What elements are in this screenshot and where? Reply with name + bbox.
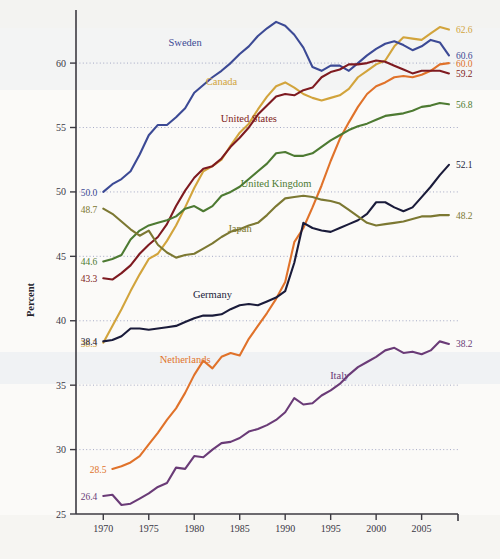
start-value-italy: 26.4 [81,492,98,502]
series-lines [103,22,449,505]
end-value-canada: 62.6 [456,25,473,35]
series-label-united-states: United States [221,113,277,124]
x-tick-label: 1970 [93,523,113,534]
end-value-netherlands: 60.0 [456,59,473,69]
chart-figure: 2530354045505560 19701975198019851990199… [0,0,500,559]
start-value-netherlands: 28.5 [90,465,107,475]
start-value-sweden: 50.0 [81,188,98,198]
series-label-sweden: Sweden [169,37,203,48]
x-tick-label: 2000 [366,523,386,534]
end-value-italy: 38.2 [456,339,473,349]
y-tick-label: 40 [56,315,66,326]
y-tick-label: 35 [56,380,66,391]
series-label-germany: Germany [193,289,233,300]
x-tick-label: 1985 [230,523,250,534]
series-line-sweden [103,22,449,192]
end-value-united-kingdom: 56.8 [456,100,473,110]
x-tick-label: 1975 [139,523,159,534]
end-value-united-states: 59.2 [456,69,473,79]
start-value-japan: 48.7 [81,205,98,215]
series-line-japan [103,196,449,258]
y-tick-label: 50 [56,186,66,197]
series-label-italy: Italy [330,370,350,381]
series-label-canada: Canada [206,76,238,87]
line-chart: 2530354045505560 19701975198019851990199… [0,0,500,559]
y-axis-ticks: 2530354045505560 [56,58,76,520]
start-value-united-kingdom: 44.6 [81,257,98,267]
x-tick-label: 2005 [412,523,432,534]
x-tick-label: 1980 [184,523,204,534]
y-tick-label: 45 [56,251,66,262]
y-tick-label: 55 [56,122,66,133]
series-label-united-kingdom: United Kingdom [241,178,312,189]
start-value-germany: 38.4 [81,337,98,347]
x-tick-label: 1990 [275,523,295,534]
y-tick-label: 60 [56,58,66,69]
x-tick-label: 1995 [321,523,341,534]
end-value-japan: 48.2 [456,211,473,221]
series-line-united-states [103,61,449,280]
series-line-germany [103,165,449,342]
x-axis-ticks: 19701975198019851990199520002005 [93,514,431,534]
y-axis-title: Percent [25,282,36,317]
series-line-italy [103,341,449,505]
axes [76,10,458,521]
y-tick-label: 30 [56,444,66,455]
start-value-united-states: 43.3 [81,274,98,284]
series-label-japan: Japan [228,223,253,234]
series-label-netherlands: Netherlands [160,354,211,365]
y-tick-label: 25 [56,509,66,520]
end-value-germany: 52.1 [456,160,473,170]
